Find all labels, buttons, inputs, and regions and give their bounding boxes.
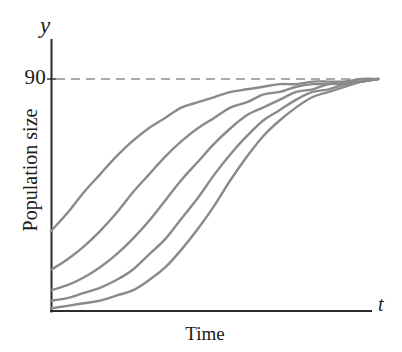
y-axis-title: Population size (20, 109, 40, 232)
y-tick-label-90: 90 (25, 67, 46, 88)
logistic-curve (51, 79, 378, 231)
logistic-curve (51, 79, 378, 290)
y-axis-variable-label: y (40, 14, 50, 37)
logistic-growth-chart: y t 90 Population size Time (0, 0, 402, 352)
logistic-curves-group (51, 79, 378, 309)
chart-plot-area (0, 0, 402, 352)
logistic-curve (51, 79, 378, 308)
x-axis-title: Time (185, 324, 224, 343)
x-axis-variable-label: t (378, 294, 384, 314)
